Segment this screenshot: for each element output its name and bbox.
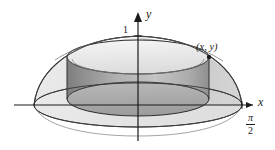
- x-tick-label-half-pi: π 2: [246, 113, 255, 136]
- solid-of-revolution-diagram: [0, 0, 275, 150]
- y-tick-label-one: 1: [123, 25, 128, 35]
- fraction-numerator: π: [246, 113, 255, 124]
- x-axis-arrow-icon: [246, 102, 253, 108]
- fraction-denominator: 2: [246, 126, 255, 137]
- figure-container: y x 1 (x, y) π 2: [0, 0, 275, 150]
- fraction-half-pi: π 2: [246, 113, 255, 136]
- y-axis-arrow-icon: [134, 12, 142, 22]
- x-axis-label: x: [258, 96, 263, 108]
- y-axis-label: y: [146, 8, 151, 20]
- point-marker-xy: [207, 55, 211, 59]
- point-label-xy: (x, y): [196, 42, 218, 53]
